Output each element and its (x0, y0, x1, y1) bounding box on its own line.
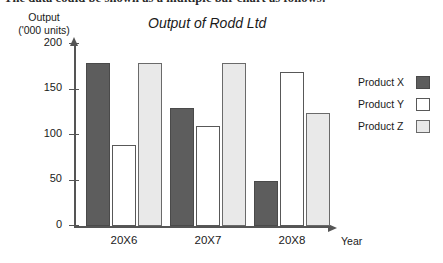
chart-page: The data could be shown as a multiple ba… (0, 0, 443, 263)
y-axis-tick-label: 100 (44, 127, 62, 139)
bar-20X7-product-z (222, 63, 246, 227)
x-axis-line (74, 226, 332, 228)
legend-swatch-y-icon (416, 98, 430, 111)
y-axis-tick: 150 (69, 89, 79, 90)
y-axis-line (74, 46, 76, 228)
x-axis-label-20X8: 20X8 (254, 234, 330, 246)
legend-label: Product X (358, 76, 416, 88)
y-axis-title: Output ('000 units) (6, 11, 82, 36)
bar-20X7-product-x (170, 108, 194, 226)
bar-20X8-product-x (254, 181, 278, 227)
chart-title: Output of Rodd Ltd (148, 15, 266, 31)
x-axis-title: Year (341, 235, 362, 247)
bar-20X6-product-z (138, 63, 162, 227)
bar-20X8-product-y (280, 72, 304, 227)
legend-swatch-z-icon (416, 120, 430, 133)
bar-20X6-product-x (86, 63, 110, 227)
legend-item-product-y: Product Y (358, 93, 440, 115)
y-axis-tick: 100 (69, 134, 79, 135)
plot-area: 050100150200 20X620X720X8 (74, 44, 336, 228)
y-axis-tick-label: 0 (56, 218, 62, 230)
legend-label: Product Y (358, 98, 416, 110)
legend-item-product-z: Product Z (358, 115, 440, 137)
y-axis-tick-label: 50 (50, 172, 62, 184)
legend: Product XProduct YProduct Z (358, 71, 440, 137)
y-axis-tick: 50 (69, 180, 79, 181)
bar-20X6-product-y (112, 145, 136, 227)
legend-swatch-x-icon (416, 76, 430, 89)
y-axis-arrow-icon (70, 37, 78, 46)
y-axis-title-line1: Output (6, 11, 82, 24)
y-axis-title-line2: ('000 units) (6, 24, 82, 37)
x-axis-label-20X6: 20X6 (86, 234, 162, 246)
legend-label: Product Z (358, 120, 416, 132)
y-axis-tick-label: 150 (44, 81, 62, 93)
legend-item-product-x: Product X (358, 71, 440, 93)
y-axis-tick: 200 (69, 43, 79, 44)
x-axis-label-20X7: 20X7 (170, 234, 246, 246)
bar-20X8-product-z (306, 113, 330, 227)
caption-text: The data could be shown as a multiple ba… (4, 0, 326, 5)
y-axis-tick: 0 (69, 225, 79, 226)
y-axis-tick-label: 200 (44, 36, 62, 48)
caption-strip: The data could be shown as a multiple ba… (0, 0, 443, 5)
bar-20X7-product-y (196, 126, 220, 226)
